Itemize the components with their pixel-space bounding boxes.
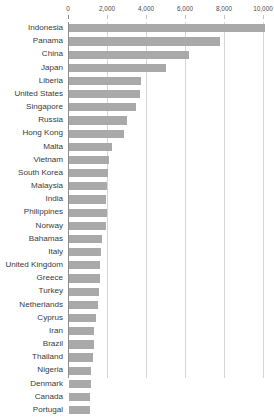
bar	[69, 274, 100, 282]
category-label: Russia	[38, 115, 63, 125]
bar	[69, 340, 94, 348]
bar	[69, 406, 90, 414]
bar	[69, 116, 127, 124]
category-label: Canada	[35, 392, 63, 402]
x-tick-mark	[185, 15, 186, 19]
category-label: Nigeria	[37, 365, 63, 375]
bar	[69, 77, 141, 85]
category-label: Liberia	[39, 76, 63, 86]
bar	[69, 209, 107, 217]
x-tick-label: 8,000	[216, 5, 232, 13]
bar-row: Turkey	[0, 285, 272, 298]
bar-row: Japan	[0, 62, 272, 75]
bar	[69, 90, 140, 98]
category-label: Turkey	[39, 286, 63, 296]
bar	[69, 288, 99, 296]
category-label: India	[45, 194, 63, 204]
bar-row: Netherlands	[0, 299, 272, 312]
bar-row: United States	[0, 88, 272, 101]
category-label: Netherlands	[19, 300, 63, 310]
bar-row: Liberia	[0, 75, 272, 88]
bar-row: United Kingdom	[0, 259, 272, 272]
category-label: Iran	[49, 326, 63, 336]
category-label: United States	[14, 89, 63, 99]
bar	[69, 327, 94, 335]
bar-row: Nigeria	[0, 364, 272, 377]
bar	[69, 51, 189, 59]
category-label: Hong Kong	[22, 128, 63, 138]
bar	[69, 64, 166, 72]
bar	[69, 367, 91, 375]
category-label: Philippines	[24, 207, 63, 217]
bar-row: Hong Kong	[0, 127, 272, 140]
bar-row: Indonesia	[0, 22, 272, 35]
category-label: Thailand	[32, 352, 63, 362]
bar	[69, 24, 265, 32]
bar	[69, 261, 100, 269]
category-label: Brazil	[43, 339, 63, 349]
bar-row: Thailand	[0, 351, 272, 364]
bar	[69, 37, 220, 45]
x-tick-mark	[68, 15, 69, 19]
x-tick-mark	[224, 15, 225, 19]
category-label: Malta	[43, 142, 63, 152]
x-tick-mark	[146, 15, 147, 19]
category-label: Vietnam	[33, 155, 63, 165]
x-tick-mark	[263, 15, 264, 19]
category-label: Panama	[33, 36, 63, 46]
bar-row: Portugal	[0, 404, 272, 417]
bar-row: Malaysia	[0, 180, 272, 193]
bar-row: Greece	[0, 272, 272, 285]
category-label: Denmark	[30, 379, 63, 389]
bar	[69, 182, 107, 190]
bar	[69, 169, 108, 177]
category-label: United Kingdom	[5, 260, 63, 270]
bar	[69, 248, 101, 256]
x-tick-label: 2,000	[99, 5, 115, 13]
bar-row: South Korea	[0, 167, 272, 180]
bar-rows: IndonesiaPanamaChinaJapanLiberiaUnited S…	[0, 22, 272, 417]
bar-row: Iran	[0, 325, 272, 338]
x-tick-label: 0	[66, 5, 70, 13]
bar-row: India	[0, 193, 272, 206]
bar-row: Italy	[0, 246, 272, 259]
x-tick-label: 6,000	[177, 5, 193, 13]
bar	[69, 235, 102, 243]
bar	[69, 353, 93, 361]
bar	[69, 130, 124, 138]
category-label: Malaysia	[31, 181, 63, 191]
bar-row: Russia	[0, 114, 272, 127]
bar	[69, 314, 96, 322]
category-label: Portugal	[33, 405, 63, 415]
category-label: South Korea	[18, 168, 63, 178]
bar-row: Brazil	[0, 338, 272, 351]
bar-row: Cyprus	[0, 312, 272, 325]
bar	[69, 222, 106, 230]
category-label: Singapore	[26, 102, 63, 112]
bar	[69, 143, 112, 151]
category-label: Japan	[41, 63, 63, 73]
bar	[69, 380, 91, 388]
bar-row: Singapore	[0, 101, 272, 114]
category-label: Indonesia	[28, 23, 63, 33]
bar-row: Bahamas	[0, 233, 272, 246]
bar-row: Philippines	[0, 206, 272, 219]
x-axis: 02,0004,0006,0008,00010,000	[0, 0, 272, 22]
bar-row: Canada	[0, 391, 272, 404]
bar	[69, 393, 90, 401]
x-tick-label: 4,000	[138, 5, 154, 13]
bar	[69, 301, 98, 309]
category-label: China	[42, 49, 63, 59]
bar	[69, 103, 136, 111]
category-label: Norway	[36, 221, 63, 231]
bar-row: China	[0, 48, 272, 61]
bar	[69, 156, 109, 164]
category-label: Greece	[36, 273, 63, 283]
category-label: Cyprus	[37, 313, 63, 323]
x-tick-label: 10,000	[253, 5, 273, 13]
bar-row: Vietnam	[0, 154, 272, 167]
bar-row: Panama	[0, 35, 272, 48]
category-label: Italy	[48, 247, 63, 257]
bar-row: Norway	[0, 220, 272, 233]
